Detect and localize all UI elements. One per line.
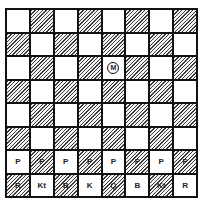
square-r5-c5	[126, 128, 148, 150]
square-r2-c2	[55, 57, 77, 79]
square-r5-c1	[31, 128, 53, 150]
square-r4-c0	[7, 104, 29, 126]
piece-label: P	[111, 157, 116, 166]
piece-label: P	[159, 157, 164, 166]
piece-label: Kt	[157, 181, 165, 190]
square-r1-c2	[55, 34, 77, 56]
piece-label: R	[15, 181, 21, 190]
piece-label: P	[39, 157, 44, 166]
square-r3-c4	[103, 81, 125, 103]
square-r4-c5	[126, 104, 148, 126]
square-r7-c3: K	[79, 175, 101, 197]
square-r7-c6: Kt	[150, 175, 172, 197]
square-r6-c0: P	[7, 151, 29, 173]
square-r4-c1	[31, 104, 53, 126]
square-r7-c7: R	[174, 175, 196, 197]
square-r0-c6	[150, 10, 172, 32]
square-r6-c3: P	[79, 151, 101, 173]
square-r1-c3	[79, 34, 101, 56]
square-r5-c2	[55, 128, 77, 150]
piece-label: P	[182, 157, 187, 166]
square-r4-c3	[79, 104, 101, 126]
square-r0-c5	[126, 10, 148, 32]
square-r0-c0	[7, 10, 29, 32]
square-r4-c7	[174, 104, 196, 126]
square-r6-c7: P	[174, 151, 196, 173]
square-r7-c5: B	[126, 175, 148, 197]
piece-label: K	[87, 181, 93, 190]
square-r2-c3	[79, 57, 101, 79]
square-r2-c6	[150, 57, 172, 79]
square-r7-c0: R	[7, 175, 29, 197]
square-r6-c1: P	[31, 151, 53, 173]
piece-label: R	[182, 181, 188, 190]
square-r6-c5: P	[126, 151, 148, 173]
square-r5-c7	[174, 128, 196, 150]
square-r0-c2	[55, 10, 77, 32]
square-r5-c3	[79, 128, 101, 150]
square-r4-c6	[150, 104, 172, 126]
square-r1-c6	[150, 34, 172, 56]
square-r0-c7	[174, 10, 196, 32]
square-r0-c1	[31, 10, 53, 32]
square-r5-c0	[7, 128, 29, 150]
square-r3-c7	[174, 81, 196, 103]
square-r7-c2: B	[55, 175, 77, 197]
square-r7-c4: Q	[103, 175, 125, 197]
piece-label: P	[63, 157, 68, 166]
square-r1-c7	[174, 34, 196, 56]
piece-label: B	[63, 181, 69, 190]
square-r4-c4	[103, 104, 125, 126]
square-r2-c1	[31, 57, 53, 79]
square-r2-c5	[126, 57, 148, 79]
chessboard: MPPPPPPPPRKtBKQBKtR	[5, 8, 198, 198]
piece-label: P	[135, 157, 140, 166]
square-r3-c3	[79, 81, 101, 103]
piece-label: Q	[110, 181, 116, 190]
square-r0-c4	[103, 10, 125, 32]
square-r6-c4: P	[103, 151, 125, 173]
square-r5-c4	[103, 128, 125, 150]
square-r2-c7	[174, 57, 196, 79]
square-r4-c2	[55, 104, 77, 126]
square-r1-c5	[126, 34, 148, 56]
square-r6-c2: P	[55, 151, 77, 173]
square-r1-c1	[31, 34, 53, 56]
square-r2-c4: M	[103, 57, 125, 79]
square-r6-c6: P	[150, 151, 172, 173]
piece-label: P	[15, 157, 20, 166]
square-r3-c2	[55, 81, 77, 103]
square-r2-c0	[7, 57, 29, 79]
square-r5-c6	[150, 128, 172, 150]
marker-circle-icon: M	[107, 62, 119, 74]
square-r3-c0	[7, 81, 29, 103]
square-r1-c0	[7, 34, 29, 56]
square-r3-c1	[31, 81, 53, 103]
piece-label: Kt	[38, 181, 46, 190]
square-r7-c1: Kt	[31, 175, 53, 197]
square-r3-c6	[150, 81, 172, 103]
piece-label: B	[134, 181, 140, 190]
square-r0-c3	[79, 10, 101, 32]
square-r3-c5	[126, 81, 148, 103]
square-r1-c4	[103, 34, 125, 56]
piece-label: P	[87, 157, 92, 166]
